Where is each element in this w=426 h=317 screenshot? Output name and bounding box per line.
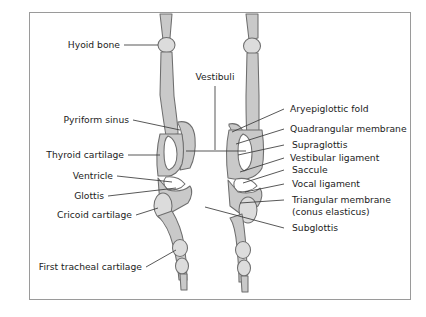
label-first-tracheal-cartilage: First tracheal cartilage: [39, 261, 143, 272]
larynx-diagram-figure: Hyoid bone Pyriform sinus Thyroid cartil…: [0, 0, 426, 317]
label-pyriform-sinus: Pyriform sinus: [64, 114, 130, 125]
leader-ventricle: [117, 176, 172, 182]
label-supraglottis: Supraglottis: [292, 139, 348, 150]
right-label-group: Aryepiglottic fold Quadrangular membrane…: [290, 103, 407, 233]
right-hyoid-bone-shape: [244, 38, 261, 54]
right-first-tracheal-cartilage-shape: [236, 242, 251, 259]
left-epiglottis-column: [160, 52, 178, 136]
left-first-tracheal-cartilage-shape: [173, 240, 188, 257]
left-hyoid-bone-shape: [158, 38, 175, 53]
right-second-tracheal-ring: [238, 260, 251, 276]
left-trachea-tail: [180, 274, 187, 290]
diagram-canvas: Hyoid bone Pyriform sinus Thyroid cartil…: [0, 0, 426, 317]
label-vestibuli: Vestibuli: [196, 71, 235, 82]
label-vocal-ligament: Vocal ligament: [292, 178, 360, 189]
label-conus-elasticus: (conus elasticus): [292, 206, 370, 217]
label-vestibular-ligament: Vestibular ligament: [290, 152, 380, 163]
leader-first-tracheal-cartilage: [146, 250, 176, 267]
label-triangular-membrane: Triangular membrane: [291, 194, 391, 205]
right-larynx-structure: [227, 14, 264, 292]
left-label-group: Hyoid bone Pyriform sinus Thyroid cartil…: [39, 39, 143, 272]
left-second-tracheal-ring: [176, 258, 189, 274]
right-upper-tube: [246, 14, 258, 40]
label-cricoid-cartilage: Cricoid cartilage: [57, 209, 132, 220]
left-larynx-structure: [154, 14, 195, 290]
label-ventricle: Ventricle: [73, 170, 114, 181]
label-hyoid-bone: Hyoid bone: [68, 39, 121, 50]
label-subglottis: Subglottis: [292, 222, 338, 233]
center-label-group: Vestibuli: [196, 71, 235, 82]
right-trachea-tail: [241, 276, 248, 292]
right-epiglottis-column: [246, 53, 259, 136]
label-thyroid-cartilage: Thyroid cartilage: [45, 149, 124, 160]
label-aryepiglottic-fold: Aryepiglottic fold: [290, 103, 369, 114]
label-quadrangular-membrane: Quadrangular membrane: [290, 123, 407, 134]
label-saccule: Saccule: [292, 164, 328, 175]
right-saccule-pocket: [234, 178, 257, 191]
left-upper-tube: [160, 14, 172, 40]
label-glottis: Glottis: [74, 190, 104, 201]
